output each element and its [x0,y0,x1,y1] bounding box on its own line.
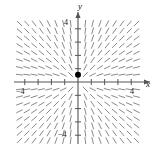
slope-segment [39,35,43,40]
slope-segment [119,123,124,128]
slope-segment [16,51,22,54]
slope-segment [84,49,86,56]
slope-segment [39,28,43,34]
slope-segment [112,58,118,62]
slope-segment [134,36,140,40]
slope-segment [119,51,125,55]
slope-segment [24,51,30,54]
slope-segment [127,21,132,26]
slope-segment [84,94,87,100]
slope-segment [118,74,125,75]
slope-segment [112,123,116,128]
slope-segment [105,109,110,114]
slope-segment [119,102,125,105]
slope-segment [38,74,45,75]
slope-segment [91,115,94,121]
slope-segment [46,66,52,69]
slope-segment [119,58,125,61]
slope-segment [113,21,117,27]
slope-segment [17,117,23,121]
slope-segment [111,89,118,90]
slope-segment [126,43,132,47]
slope-segment [126,51,132,54]
slope-segment [106,137,109,143]
slope-segment [97,65,103,69]
slope-segment [31,109,37,113]
slope-segment [70,49,72,56]
slope-segment [32,36,37,41]
slope-segment [90,65,95,70]
marked-points [75,72,81,78]
slope-segment [39,116,44,121]
slope-segment [120,138,124,144]
slope-segment [32,21,36,27]
slope-segment [39,123,43,128]
slope-segment [92,20,94,27]
slope-segment [40,138,44,144]
slope-segment [105,50,110,55]
slope-segment [46,95,52,98]
slope-segment [105,116,109,121]
slope-segment [70,57,72,64]
y-tick-label-negative-four: −4 [58,131,67,139]
slope-segment [31,66,38,68]
slope-segment [40,21,44,27]
slope-segment [134,138,139,143]
slope-segment [127,28,132,33]
slope-segment [70,101,72,108]
slope-segment [45,88,52,90]
slope-segment [98,42,102,48]
slope-segment [62,27,64,34]
slope-segment [112,109,117,113]
slope-segment [127,36,132,41]
slope-segment [120,131,125,136]
slope-segment [111,66,117,69]
slope-segment [17,21,22,26]
slope-segment [53,65,59,69]
slope-segment [46,102,52,106]
slope-segment [39,109,44,113]
slope-segment [106,20,109,26]
slope-segment [127,131,132,136]
slope-segment [70,130,71,137]
slope-segment [134,124,140,128]
slope-segment [46,58,52,62]
slope-segment [47,20,50,26]
slope-segment [31,102,37,105]
slope-segment [61,101,65,107]
slope-segment [90,88,96,91]
slope-segment [61,94,66,99]
slope-segment [120,21,124,27]
slope-segment [16,74,23,75]
x-axis-label: x [146,80,150,89]
slope-segment [46,50,51,55]
slope-segment [54,35,57,41]
slope-segment [17,138,22,143]
slope-segment [32,138,36,144]
slope-segment [126,74,133,75]
slope-segment [126,110,132,113]
slope-segment [119,96,126,98]
slope-segment [98,50,102,56]
slope-segment [70,137,71,144]
slope-segment [91,108,94,114]
slope-segment [91,50,94,56]
slope-segment [118,89,125,90]
slope-segment [47,123,51,129]
slope-segment [53,88,60,90]
slope-segment [47,130,50,136]
slope-segment [104,66,110,69]
slope-segment [119,66,126,68]
slope-segment [85,122,86,129]
slope-segment [31,96,38,98]
slope-segment [104,88,111,90]
slope-segment [90,73,96,76]
slope-segment [83,72,88,77]
y-axis-label: y [78,2,82,11]
slope-segment [32,28,37,33]
slope-segment [38,102,44,106]
slope-segment [92,130,94,137]
slope-segment [85,130,86,137]
slope-segment [24,43,30,47]
slope-segment [39,51,44,55]
